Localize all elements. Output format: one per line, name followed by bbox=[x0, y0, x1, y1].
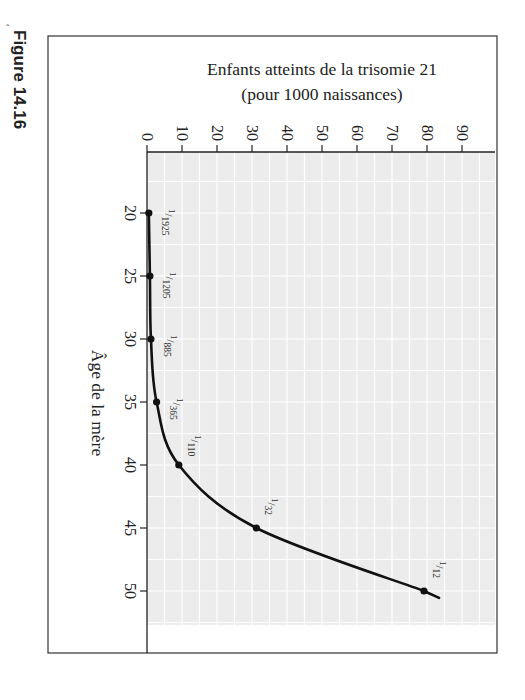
data-point bbox=[420, 587, 427, 594]
value-axis-ticks: 0102030405060708090 bbox=[139, 125, 471, 152]
value-tick-label: 30 bbox=[244, 125, 261, 141]
data-point bbox=[153, 398, 160, 405]
value-tick-label: 90 bbox=[454, 125, 471, 141]
value-axis-title-line2: (pour 1000 naissances) bbox=[241, 84, 403, 104]
value-tick-label: 40 bbox=[279, 125, 296, 141]
age-tick-label: 40 bbox=[122, 457, 139, 473]
value-axis-title-line1: Enfants atteints de la trisomie 21 bbox=[207, 59, 437, 79]
value-tick-label: 0 bbox=[139, 133, 156, 141]
data-point bbox=[253, 524, 260, 531]
value-tick-label: 50 bbox=[314, 125, 331, 141]
value-axis-title: Enfants atteints de la trisomie 21 (pour… bbox=[207, 59, 437, 104]
age-tick-label: 25 bbox=[122, 268, 139, 284]
age-tick-label: 30 bbox=[122, 331, 139, 347]
age-tick-label: 20 bbox=[122, 205, 139, 221]
data-point bbox=[147, 335, 154, 342]
value-tick-label: 10 bbox=[174, 125, 191, 141]
age-axis-ticks: 20253035404550 bbox=[122, 205, 147, 599]
value-tick-label: 80 bbox=[419, 125, 436, 141]
age-axis-title: Âge de la mère bbox=[88, 350, 108, 457]
value-tick-label: 60 bbox=[349, 125, 366, 141]
caption-accent-mark: ˆ bbox=[6, 23, 10, 34]
age-tick-label: 45 bbox=[122, 520, 139, 536]
figure-label: Figure 14.16 bbox=[10, 30, 29, 129]
data-point bbox=[145, 209, 152, 216]
data-point bbox=[146, 272, 153, 279]
data-point bbox=[175, 461, 182, 468]
value-tick-label: 20 bbox=[209, 125, 226, 141]
chart-figure: Figure 14.16 ˆ 0102030405060708090 20253… bbox=[0, 0, 525, 700]
age-tick-label: 50 bbox=[122, 583, 139, 599]
value-tick-label: 70 bbox=[384, 125, 401, 141]
age-tick-label: 35 bbox=[122, 394, 139, 410]
